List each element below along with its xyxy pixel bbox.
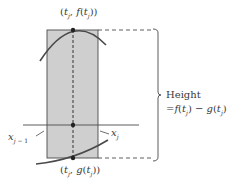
right-x-pointer: [100, 131, 109, 134]
top-point-label: (tj, f(tj)): [60, 7, 98, 19]
left-x-label: xj − 1: [8, 132, 28, 144]
left-x-pointer: [36, 131, 44, 136]
bottom-point-dot: [71, 156, 75, 160]
height-formula: =f(tj) − g(tj): [166, 104, 227, 116]
axis-point-dot: [71, 123, 75, 127]
bottom-point-label: (tj, g(tj)): [60, 165, 100, 177]
strip-rectangle: [47, 30, 98, 158]
right-x-label: xj: [111, 128, 119, 140]
height-title: Height: [166, 90, 201, 100]
height-brace: [153, 29, 161, 161]
top-point-dot: [71, 28, 75, 32]
